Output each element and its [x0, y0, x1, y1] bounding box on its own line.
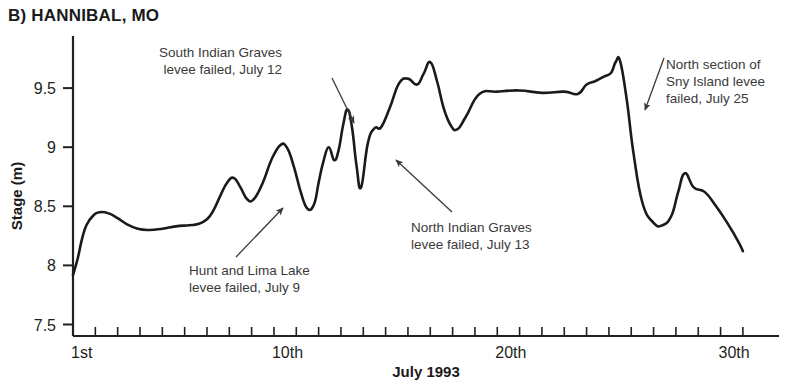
- annotation-north-section-sny-island: North section ofSny Island leveefailed, …: [645, 57, 765, 110]
- y-axis-title: Stage (m): [8, 162, 25, 230]
- annotation-line: North Indian Graves: [411, 220, 532, 235]
- annotation-arrow: [332, 78, 354, 123]
- x-tick-label: 30th: [719, 344, 750, 361]
- y-tick-label: 9.5: [34, 80, 56, 97]
- annotation-line: Sny Island levee: [666, 74, 765, 89]
- stage-hydrograph-chart: 7.588.599.5 1st10th20th30th Stage (m) Ju…: [0, 0, 787, 381]
- annotation-line: North section of: [666, 57, 761, 72]
- y-tick-label: 8: [47, 257, 56, 274]
- annotation-arrow: [645, 58, 664, 110]
- x-axis-ticks: [73, 323, 743, 336]
- annotation-line: levee failed, July 13: [411, 237, 530, 252]
- y-tick-label: 8.5: [34, 198, 56, 215]
- series-line: [73, 57, 743, 275]
- y-axis-tick-labels: 7.588.599.5: [34, 80, 56, 333]
- annotation-arrow: [236, 208, 283, 257]
- annotation-line: South Indian Graves: [159, 45, 282, 60]
- y-tick-label: 9: [47, 139, 56, 156]
- x-tick-label: 1st: [71, 344, 93, 361]
- x-tick-label: 10th: [272, 344, 303, 361]
- data-series-stage: [73, 57, 743, 275]
- annotation-north-indian-graves: North Indian Graveslevee failed, July 13: [396, 160, 532, 252]
- x-tick-label: 20th: [495, 344, 526, 361]
- x-axis-tick-labels: 1st10th20th30th: [71, 344, 750, 361]
- chart-annotations: South Indian Graveslevee failed, July 12…: [159, 45, 765, 295]
- annotation-line: failed, July 25: [666, 91, 749, 106]
- annotation-south-indian-graves: South Indian Graveslevee failed, July 12: [159, 45, 354, 123]
- chart-panel: B) HANNIBAL, MO 7.588.599.5 1st10th20th3…: [0, 0, 787, 381]
- annotation-line: levee failed, July 12: [163, 62, 282, 77]
- annotation-hunt-and-lima-lake: Hunt and Lima Lakelevee failed, July 9: [189, 208, 310, 295]
- annotation-line: Hunt and Lima Lake: [189, 263, 310, 278]
- annotation-arrow: [396, 160, 452, 212]
- y-tick-label: 7.5: [34, 317, 56, 334]
- x-axis-title: July 1993: [392, 363, 460, 380]
- y-axis-ticks: [63, 88, 73, 324]
- annotation-line: levee failed, July 9: [189, 280, 300, 295]
